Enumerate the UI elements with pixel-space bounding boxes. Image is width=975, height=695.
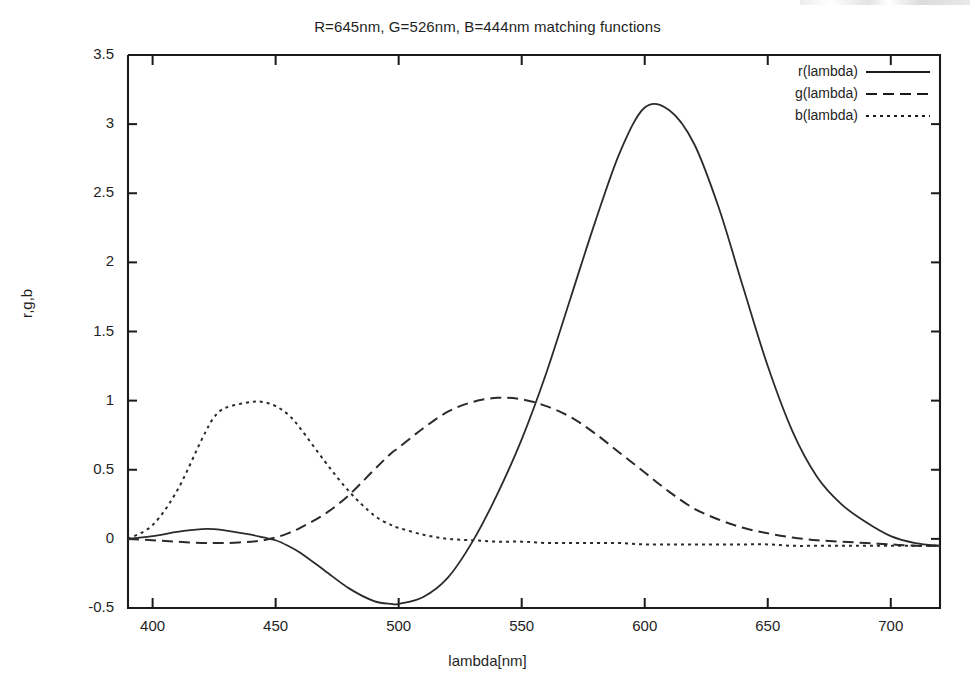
x-tick-label: 700 (861, 617, 921, 634)
y-tick-label: 2 (58, 252, 114, 269)
x-tick-label: 650 (738, 617, 798, 634)
series-line-r (128, 104, 940, 605)
y-tick-label: 3 (58, 114, 114, 131)
plot-area (0, 0, 975, 695)
x-tick-label: 450 (246, 617, 306, 634)
y-tick-label: 0 (58, 529, 114, 546)
y-tick-label: 3.5 (58, 45, 114, 62)
x-tick-label: 600 (615, 617, 675, 634)
legend-label-r: r(lambda) (738, 63, 858, 79)
series-line-b (128, 401, 940, 545)
y-tick-label: 1.5 (58, 322, 114, 339)
plot-frame (128, 55, 940, 608)
y-tick-label: 1 (58, 391, 114, 408)
y-tick-label: -0.5 (58, 598, 114, 615)
legend-label-b: b(lambda) (738, 107, 858, 123)
chart-container: R=645nm, G=526nm, B=444nm matching funct… (0, 0, 975, 695)
y-tick-label: 0.5 (58, 460, 114, 477)
y-tick-label: 2.5 (58, 183, 114, 200)
x-tick-label: 550 (492, 617, 552, 634)
legend-label-g: g(lambda) (738, 85, 858, 101)
x-tick-label: 400 (123, 617, 183, 634)
x-tick-label: 500 (369, 617, 429, 634)
series-line-g (128, 398, 940, 546)
